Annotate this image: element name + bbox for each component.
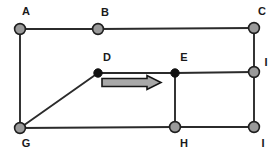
graph-node-a[interactable] [15,24,26,35]
graph-node-g[interactable] [15,123,26,134]
diagram-canvas: ABCDEIGHI [0,0,278,153]
graph-node-e[interactable] [171,69,179,77]
graph-node-b[interactable] [93,24,104,35]
graph-edge-b-c [98,28,254,29]
node-label-a: A [22,5,30,17]
graph-diagram-figure: ABCDEIGHI [0,0,278,153]
node-label-i: I [261,137,264,149]
graph-edge-g-h [20,127,175,128]
node-label-g: G [22,137,31,149]
graph-edge-e-f [175,72,254,73]
graph-node-h[interactable] [170,122,181,133]
node-label-c: C [258,5,266,17]
graph-node-f[interactable] [249,67,260,78]
graph-node-d[interactable] [94,69,102,77]
graph-node-c[interactable] [249,23,260,34]
node-label-f: I [264,56,267,68]
node-label-d: D [103,51,111,63]
block-arrow-right [102,76,161,90]
arrow-annotation-layer [102,76,161,90]
graph-edge-g-d [20,73,98,128]
graph-node-i[interactable] [249,122,260,133]
node-label-h: H [180,137,188,149]
node-label-e: E [180,51,187,63]
node-label-b: B [101,6,109,18]
